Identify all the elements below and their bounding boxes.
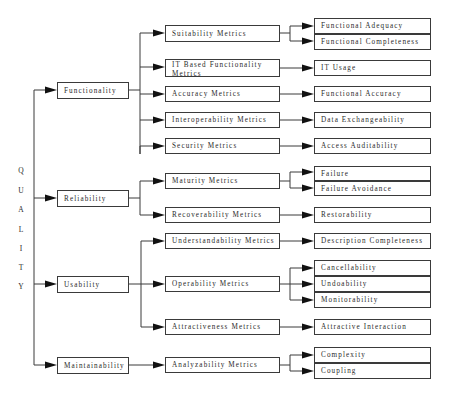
metric-it-based-functionality: IT Based Functionality Metrics — [165, 59, 280, 77]
measure-monitorability: Monitorability — [314, 292, 431, 308]
quality-letter-y: Y — [17, 282, 25, 291]
measure-functional-accuracy: Functional Accuracy — [314, 86, 431, 102]
characteristic-maintainability: Maintainability — [57, 357, 129, 374]
metric-maturity: Maturity Metrics — [165, 173, 280, 189]
metric-operability: Operability Metrics — [165, 276, 280, 292]
metric-analyzability: Analyzability Metrics — [165, 357, 280, 373]
metric-interoperability: Interoperability Metrics — [165, 112, 280, 128]
measure-access-auditability: Access Auditability — [314, 138, 431, 154]
measure-attractive-interaction: Attractive Interaction — [314, 319, 431, 335]
measure-functional-adequacy: Functional Adequacy — [314, 18, 431, 34]
measure-data-exchangeability: Data Exchangeability — [314, 112, 431, 128]
measure-coupling: Coupling — [314, 363, 431, 379]
measure-failure-avoidance: Failure Avoidance — [314, 181, 431, 196]
quality-letter-u: U — [17, 186, 25, 195]
quality-letter-q: Q — [17, 166, 25, 175]
measure-description-completeness: Description Completeness — [314, 233, 431, 249]
characteristic-reliability: Reliability — [57, 190, 129, 207]
metric-security: Security Metrics — [165, 138, 280, 154]
measure-restorability: Restorability — [314, 207, 431, 223]
measure-functional-completeness: Functional Completeness — [314, 34, 431, 50]
quality-letter-t: T — [17, 263, 25, 272]
measure-it-usage: IT Usage — [314, 60, 431, 76]
metric-understandability: Understandability Metrics — [165, 233, 280, 249]
measure-complexity: Complexity — [314, 347, 431, 363]
metric-attractiveness: Attractiveness Metrics — [165, 319, 280, 335]
quality-letter-l: L — [17, 225, 25, 234]
metric-recoverability: Recoverability Metrics — [165, 207, 280, 223]
quality-letter-a: A — [17, 205, 25, 214]
metric-suitability: Suitability Metrics — [165, 25, 280, 42]
measure-failure: Failure — [314, 166, 431, 181]
quality-hierarchy-diagram: Q U A L I T Y Functionality Reliability … — [0, 0, 449, 394]
characteristic-functionality: Functionality — [57, 82, 129, 99]
measure-cancellability: Cancellability — [314, 260, 431, 276]
measure-undoability: Undoability — [314, 276, 431, 292]
characteristic-usability: Usability — [57, 276, 129, 293]
metric-accuracy: Accuracy Metrics — [165, 86, 280, 102]
quality-letter-i: I — [17, 244, 25, 253]
